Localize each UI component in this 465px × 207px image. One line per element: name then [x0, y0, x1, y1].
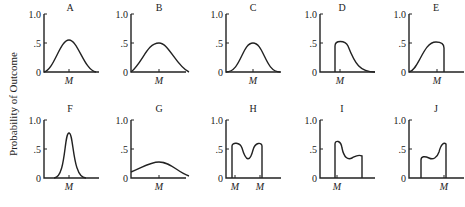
panel-label-E: E [433, 2, 439, 13]
svg-text:M: M [335, 75, 345, 86]
svg-text:1.0: 1.0 [211, 9, 224, 20]
svg-text:0: 0 [312, 173, 317, 184]
svg-text:.5: .5 [34, 144, 42, 155]
panel-J [409, 120, 464, 178]
svg-text:.5: .5 [310, 144, 318, 155]
svg-text:1.0: 1.0 [394, 9, 407, 20]
svg-text:0: 0 [123, 173, 128, 184]
svg-text:1.0: 1.0 [116, 9, 129, 20]
panel-label-C: C [250, 2, 257, 13]
svg-text:1.0: 1.0 [394, 115, 407, 126]
panel-label-F: F [67, 103, 73, 114]
panel-label-B: B [156, 2, 163, 13]
panel-label-D: D [338, 2, 345, 13]
svg-text:.5: .5 [34, 38, 42, 49]
panel-C [226, 14, 281, 72]
svg-text:0: 0 [401, 67, 406, 78]
panel-F [44, 120, 99, 178]
panel-label-A: A [66, 2, 74, 13]
svg-text:M: M [64, 75, 74, 86]
svg-text:.5: .5 [399, 144, 407, 155]
svg-text:M: M [154, 75, 164, 86]
panel-D [320, 14, 375, 72]
svg-text:1.0: 1.0 [29, 115, 42, 126]
svg-text:M: M [332, 181, 342, 192]
panel-A [44, 14, 99, 72]
svg-text:.5: .5 [310, 38, 318, 49]
svg-text:1.0: 1.0 [116, 115, 129, 126]
svg-text:1.0: 1.0 [305, 9, 318, 20]
svg-text:0: 0 [312, 67, 317, 78]
svg-text:0: 0 [123, 67, 128, 78]
svg-text:M: M [439, 181, 449, 192]
svg-text:M: M [432, 75, 442, 86]
svg-text:1.0: 1.0 [211, 115, 224, 126]
svg-text:M: M [248, 75, 258, 86]
y-ticks-row2: 1.0 .5 0 1.0 .5 0 1.0 .5 0 1.0 .5 0 1.0 … [29, 115, 407, 184]
svg-text:.5: .5 [399, 38, 407, 49]
panel-I [320, 120, 375, 178]
panel-B [131, 14, 189, 72]
tick-labels: A B C D E F G H I J 1.0 .5 0 1.0 .5 0 1.… [29, 2, 449, 192]
svg-text:.5: .5 [121, 144, 129, 155]
panel-label-G: G [155, 103, 162, 114]
svg-text:M: M [64, 181, 74, 192]
svg-text:0: 0 [401, 173, 406, 184]
svg-text:M: M [255, 181, 265, 192]
svg-text:1.0: 1.0 [305, 115, 318, 126]
svg-text:0: 0 [36, 67, 41, 78]
svg-text:.5: .5 [121, 38, 129, 49]
panel-label-H: H [249, 103, 256, 114]
panel-label-J: J [434, 103, 438, 114]
svg-text:0: 0 [218, 67, 223, 78]
y-ticks-row1: 1.0 .5 0 1.0 .5 0 1.0 .5 0 1.0 .5 0 1.0 … [29, 9, 407, 78]
svg-text:0: 0 [36, 173, 41, 184]
svg-text:M: M [230, 181, 240, 192]
panel-E [409, 14, 464, 72]
x-ticks: M M M M M M M M M M M [64, 75, 449, 192]
chart-panels: A B C D E F G H I J 1.0 .5 0 1.0 .5 0 1.… [0, 0, 465, 207]
svg-text:.5: .5 [216, 38, 224, 49]
svg-text:M: M [154, 181, 164, 192]
panel-label-I: I [340, 103, 343, 114]
svg-text:0: 0 [218, 173, 223, 184]
panel-H [226, 120, 281, 178]
svg-text:1.0: 1.0 [29, 9, 42, 20]
svg-text:.5: .5 [216, 144, 224, 155]
panel-G [131, 120, 189, 178]
